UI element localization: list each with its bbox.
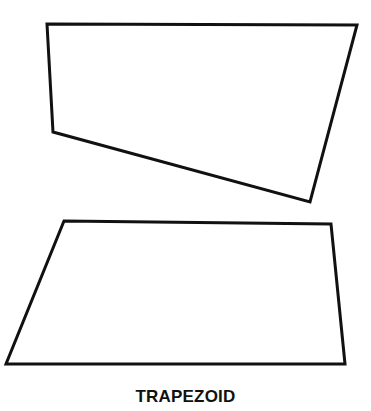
trapezoid-lower-shape xyxy=(6,221,345,364)
trapezoid-diagram xyxy=(0,0,371,411)
figure-caption: TRAPEZOID xyxy=(0,387,371,407)
trapezoid-upper-shape xyxy=(47,24,357,202)
